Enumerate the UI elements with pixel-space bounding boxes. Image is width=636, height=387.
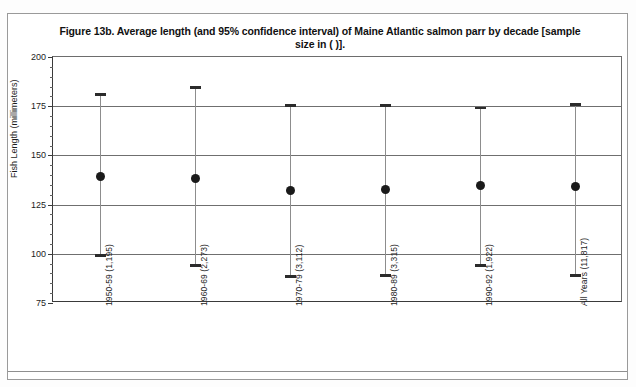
confidence-interval-upper-cap <box>95 93 106 96</box>
y-axis-major-tick <box>48 205 53 206</box>
y-axis-major-tick <box>48 303 53 304</box>
mean-marker[interactable] <box>476 181 485 190</box>
x-axis-category-label: 1980-89 (3,315) <box>389 244 399 306</box>
y-axis-minor-tick <box>50 273 53 274</box>
y-axis-minor-tick <box>50 77 53 78</box>
x-axis-category-label: 1950-59 (1,195) <box>104 244 114 306</box>
y-axis-minor-tick <box>50 146 53 147</box>
confidence-interval-upper-cap <box>190 86 201 89</box>
gridline <box>53 205 621 206</box>
y-axis-minor-tick <box>50 293 53 294</box>
y-axis-minor-tick <box>50 264 53 265</box>
y-axis-tick-label: 175 <box>31 101 46 111</box>
y-axis-minor-tick <box>50 224 53 225</box>
bottom-divider <box>8 371 627 372</box>
chart-title: Figure 13b. Average length (and 95% conf… <box>55 25 585 51</box>
y-axis-major-tick <box>48 57 53 58</box>
gridline <box>53 254 621 255</box>
y-axis-minor-tick <box>50 283 53 284</box>
mean-marker[interactable] <box>191 174 200 183</box>
y-axis-major-tick <box>48 106 53 107</box>
y-axis-minor-tick <box>50 96 53 97</box>
y-axis-tick-label: 100 <box>31 249 46 259</box>
y-axis-tick-label: 125 <box>31 200 46 210</box>
gridline <box>53 155 621 156</box>
y-axis-tick-label: 200 <box>31 52 46 62</box>
confidence-interval-upper-cap <box>475 107 486 110</box>
y-axis-major-tick <box>48 155 53 156</box>
mean-marker[interactable] <box>381 185 390 194</box>
y-axis-major-tick <box>48 254 53 255</box>
confidence-interval-upper-cap <box>570 103 581 106</box>
y-axis-title: Fish Length (millimeters) <box>9 79 19 178</box>
y-axis-minor-tick <box>50 214 53 215</box>
mean-marker[interactable] <box>96 172 105 181</box>
mean-marker[interactable] <box>571 182 580 191</box>
gridline <box>53 106 621 107</box>
mean-marker[interactable] <box>286 186 295 195</box>
y-axis-minor-tick <box>50 165 53 166</box>
x-axis-category-label: 1970-79 (3,112) <box>294 245 304 306</box>
y-axis-minor-tick <box>50 244 53 245</box>
figure-root: Figure 13b. Average length (and 95% conf… <box>0 0 636 387</box>
y-axis-minor-tick <box>50 116 53 117</box>
y-axis-minor-tick <box>50 136 53 137</box>
y-axis-minor-tick <box>50 195 53 196</box>
y-axis-minor-tick <box>50 175 53 176</box>
confidence-interval-upper-cap <box>285 104 296 107</box>
y-axis-minor-tick <box>50 126 53 127</box>
plot-area: 20017515012510075 <box>52 56 622 302</box>
x-axis-category-label: 1960-69 (2,273) <box>199 244 209 306</box>
y-axis-minor-tick <box>50 67 53 68</box>
confidence-interval-upper-cap <box>380 104 391 107</box>
y-axis-minor-tick <box>50 185 53 186</box>
x-axis-category-label: All Years (11,817) <box>579 238 589 306</box>
y-axis-minor-tick <box>50 234 53 235</box>
y-axis-tick-label: 150 <box>31 150 46 160</box>
x-axis-category-label: 1990-92 (1,922) <box>484 244 494 306</box>
y-axis-tick-label: 75 <box>36 298 46 308</box>
y-axis-minor-tick <box>50 87 53 88</box>
